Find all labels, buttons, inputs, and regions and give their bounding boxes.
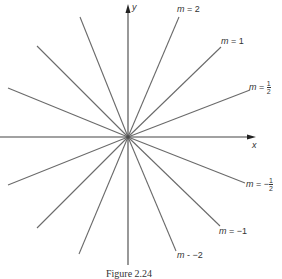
line-m-2-left <box>79 137 128 254</box>
label-eq: - −2 <box>185 250 203 260</box>
line-m-2 <box>128 17 179 137</box>
line-m-neg-half-left <box>8 88 128 137</box>
y-axis-arrow-icon <box>126 4 131 13</box>
m-symbol: m <box>177 250 185 260</box>
label-eq: = − <box>254 179 270 189</box>
x-axis-label: x <box>252 140 257 150</box>
m-symbol: m <box>246 179 254 189</box>
label-m-neg-1: m = −1 <box>219 226 247 236</box>
label-m-half: m = 12 <box>249 80 271 95</box>
label-eq: = −1 <box>227 226 248 236</box>
figure-caption: Figure 2.24 <box>106 268 152 279</box>
x-axis-arrow-icon <box>247 135 256 140</box>
line-m-neg-2 <box>128 137 176 251</box>
line-m-1-left <box>37 137 128 228</box>
label-eq: = 2 <box>185 4 200 14</box>
label-eq: = 1 <box>229 36 244 46</box>
m-symbol: m <box>219 226 227 236</box>
label-eq: = <box>257 82 267 92</box>
line-m-neg-1-left <box>37 46 128 137</box>
m-symbol: m <box>177 4 185 14</box>
label-m-1: m = 1 <box>221 36 244 46</box>
line-m-neg-half <box>128 137 245 183</box>
fraction: 12 <box>269 177 273 192</box>
line-m-neg-2-left <box>80 17 128 137</box>
label-m-neg-half: m = −12 <box>246 177 273 192</box>
m-symbol: m <box>249 82 257 92</box>
label-m-2: m = 2 <box>177 4 200 14</box>
line-m-half <box>128 90 250 137</box>
m-symbol: m <box>221 36 229 46</box>
line-m-neg-1 <box>128 137 220 226</box>
label-m-neg-2: m - −2 <box>177 250 203 260</box>
y-axis-label: y <box>132 2 137 12</box>
line-m-half-left <box>8 137 128 185</box>
fraction: 12 <box>267 80 271 95</box>
line-m-1 <box>128 47 221 137</box>
